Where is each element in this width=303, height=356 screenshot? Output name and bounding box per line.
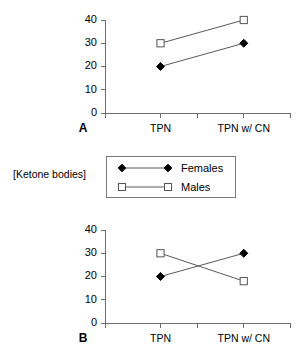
data-point-females <box>157 63 165 71</box>
x-category-label: TPN w/ CN <box>218 332 271 344</box>
chart-panel-a: 010203040TPNTPN w/ CNA <box>0 0 303 150</box>
series-line-females <box>161 43 244 66</box>
y-tick-label: 40 <box>85 13 97 25</box>
panel-a-plot: 010203040TPNTPN w/ CNA <box>0 0 303 150</box>
series-line-males <box>161 20 244 43</box>
data-point-males <box>157 40 164 47</box>
legend: Females Males <box>106 156 236 198</box>
y-tick-label: 10 <box>85 293 97 305</box>
data-point-males <box>240 16 247 23</box>
legend-label-females: Females <box>181 162 223 174</box>
y-tick-label: 10 <box>85 83 97 95</box>
series-line-females <box>161 253 244 276</box>
data-point-females <box>157 273 165 281</box>
panel-letter: A <box>79 121 88 135</box>
panel-letter: B <box>79 331 88 345</box>
open-square-icon <box>116 180 174 194</box>
data-point-females <box>240 249 248 257</box>
x-category-label: TPN <box>150 122 171 134</box>
y-tick-label: 40 <box>85 223 97 235</box>
legend-item-females: Females <box>107 158 235 178</box>
data-point-females <box>240 39 248 47</box>
figure-container: 010203040TPNTPN w/ CNA Females Males [Ke… <box>0 0 303 356</box>
y-tick-label: 20 <box>85 269 97 281</box>
y-tick-label: 20 <box>85 59 97 71</box>
x-category-label: TPN <box>150 332 171 344</box>
series-line-males <box>161 253 244 281</box>
filled-diamond-icon <box>116 161 174 175</box>
data-point-males <box>240 278 247 285</box>
panel-b-plot: 010203040TPNTPN w/ CNB <box>0 200 303 356</box>
data-point-males <box>157 250 164 257</box>
y-tick-label: 30 <box>85 36 97 48</box>
legend-item-males: Males <box>107 177 235 197</box>
y-axis-label: [Ketone bodies] <box>13 168 86 180</box>
chart-panel-b: 010203040TPNTPN w/ CNB <box>0 200 303 356</box>
y-tick-label: 30 <box>85 246 97 258</box>
x-category-label: TPN w/ CN <box>218 122 271 134</box>
y-tick-label: 0 <box>91 106 97 118</box>
legend-label-males: Males <box>181 181 210 193</box>
y-tick-label: 0 <box>91 316 97 328</box>
